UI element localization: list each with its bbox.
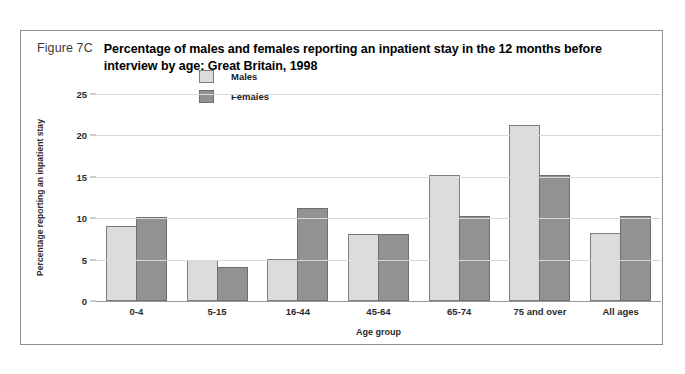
x-axis-tick-label: 0-4: [96, 306, 177, 317]
gridline: [96, 94, 661, 95]
x-axis-tick-labels: 0-45-1516-4445-6465-7475 and overAll age…: [96, 306, 661, 317]
legend-swatch-males: [199, 70, 214, 83]
bars-layer: [96, 94, 661, 301]
bar-group: [419, 94, 500, 301]
y-axis-tick-label: 25: [76, 89, 87, 100]
y-axis-tick-label: 15: [76, 171, 87, 182]
x-axis-tick-label: All ages: [580, 306, 661, 317]
y-axis-tick-mark: [90, 218, 96, 219]
x-axis-tick-label: 65-74: [419, 306, 500, 317]
bar-group: [257, 94, 338, 301]
bar-males-16-44[interactable]: [267, 259, 298, 301]
y-axis-title: Percentage reporting an inpatient stay: [35, 94, 49, 301]
y-axis-tick-mark: [90, 94, 96, 95]
y-axis-tick-mark: [90, 176, 96, 177]
bar-group: [500, 94, 581, 301]
gridline: [96, 218, 661, 219]
bar-females-45-64[interactable]: [378, 234, 409, 301]
y-axis-tick-label: 5: [82, 254, 87, 265]
bar-males-All-ages[interactable]: [590, 233, 621, 301]
bar-group: [338, 94, 419, 301]
y-axis-tick-label: 0: [82, 296, 87, 307]
gridline: [96, 260, 661, 261]
y-axis-tick-label: 10: [76, 213, 87, 224]
gridline: [96, 177, 661, 178]
x-axis-tick-label: 45-64: [338, 306, 419, 317]
figure-number: Figure 7C: [37, 41, 93, 55]
bar-males-0-4[interactable]: [106, 226, 137, 301]
y-axis-tick-label: 20: [76, 130, 87, 141]
gridline: [96, 135, 661, 136]
bar-females-65-74[interactable]: [459, 216, 490, 301]
x-axis-tick-label: 5-15: [177, 306, 258, 317]
bar-males-65-74[interactable]: [429, 175, 460, 301]
bar-group: [580, 94, 661, 301]
bar-females-All-ages[interactable]: [620, 216, 651, 301]
legend-item-males[interactable]: Males: [199, 66, 269, 86]
x-axis-tick-label: 16-44: [257, 306, 338, 317]
plot-area: 0510152025: [96, 94, 661, 301]
bar-females-75-and-over[interactable]: [539, 175, 570, 301]
bar-males-5-15[interactable]: [187, 260, 218, 301]
bar-males-75-and-over[interactable]: [509, 125, 540, 301]
bar-females-5-15[interactable]: [217, 267, 248, 301]
bar-group: [177, 94, 258, 301]
bar-females-16-44[interactable]: [297, 208, 328, 301]
y-axis-tick-mark: [90, 259, 96, 260]
x-axis-line: [96, 301, 661, 302]
legend-label: Males: [231, 71, 257, 82]
x-axis-tick-label: 75 and over: [500, 306, 581, 317]
figure-title-block: Figure 7C Percentage of males and female…: [37, 41, 649, 74]
y-axis-tick-mark: [90, 135, 96, 136]
page-title: Percentage of males and females reportin…: [104, 41, 649, 74]
figure-frame: Figure 7C Percentage of males and female…: [20, 30, 663, 345]
bar-males-45-64[interactable]: [348, 234, 379, 301]
x-axis-title: Age group: [96, 327, 661, 337]
y-axis-tick-mark: [90, 301, 96, 302]
bar-group: [96, 94, 177, 301]
